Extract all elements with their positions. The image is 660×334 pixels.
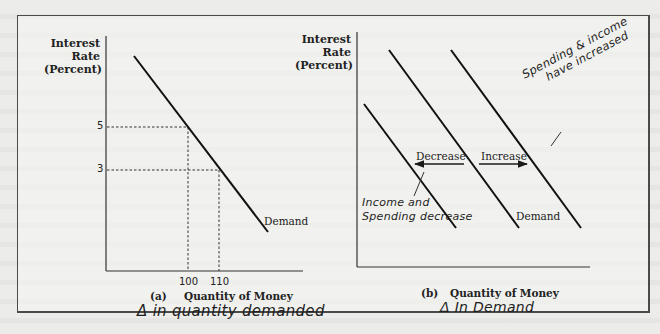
y-title-line-3: (Percent) [44, 63, 100, 76]
panel-a-handwritten-note: Δ in quantity demanded [137, 302, 325, 320]
y-title-line-2: Rate [295, 46, 351, 59]
panel-a-y-axis-title: Interest Rate (Percent) [44, 37, 100, 76]
panel-a-guides [107, 127, 219, 271]
tick-label-110: 110 [210, 276, 229, 287]
y-title-line-1: Interest [44, 37, 100, 50]
y-title-line-2: Rate [44, 50, 100, 63]
panel-a-x-axis-title: Quantity of Money [184, 290, 293, 302]
panel-a-label: (a) [150, 290, 167, 302]
y-title-line-1: Interest [295, 33, 351, 46]
panel-b-demand-label: Demand [516, 210, 560, 222]
panel-a-demand-curve [134, 56, 268, 232]
note-line-2: Spending decrease [362, 210, 473, 224]
increase-label: Increase [481, 150, 527, 162]
tick-label-100: 100 [179, 276, 198, 287]
decrease-label: Decrease [416, 150, 466, 162]
tick-label-3: 3 [97, 163, 103, 174]
increase-note-pointer [551, 132, 561, 146]
y-title-line-3: (Percent) [295, 59, 351, 72]
panel-a-demand-label: Demand [264, 215, 308, 227]
panel-b-handwritten-note: Δ In Demand [440, 299, 534, 315]
panel-b-label: (b) [421, 287, 438, 299]
panel-b-y-axis-title: Interest Rate (Percent) [295, 33, 351, 72]
decrease-handwritten-note: Income and Spending decrease [362, 196, 473, 224]
panel-a-plot [106, 36, 303, 271]
note-line-1: Income and [362, 196, 473, 210]
panel-b-x-axis-title: Quantity of Money [450, 287, 559, 299]
tick-label-5: 5 [97, 120, 103, 131]
